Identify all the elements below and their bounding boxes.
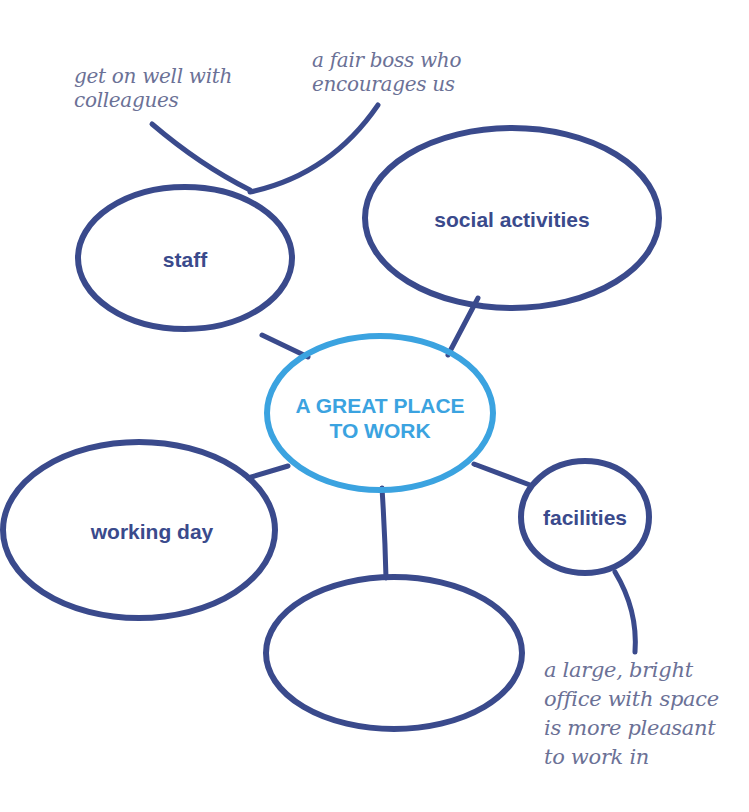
connector-blank-center [382, 488, 386, 578]
note-fair-boss: a fair boss who encourages us [312, 48, 461, 96]
connector-facilities-note [615, 572, 635, 652]
node-staff-label: staff [163, 247, 207, 272]
central-label-line-1: A GREAT PLACE [295, 393, 464, 418]
note-large-bright-office: a large, bright office with space is mor… [544, 656, 719, 772]
connector-note-colleagues [152, 124, 250, 190]
node-social-activities-label: social activities [434, 207, 589, 232]
node-blank-ellipse [266, 577, 522, 729]
node-facilities-label: facilities [543, 505, 627, 530]
note-get-on-well: get on well with colleagues [74, 64, 232, 112]
node-working-day-label: working day [91, 519, 214, 544]
node-central-label: A GREAT PLACE TO WORK [295, 393, 464, 443]
connector-staff-center [262, 335, 308, 357]
connector-note-boss [250, 105, 378, 192]
central-label-line-2: TO WORK [295, 418, 464, 443]
connector-facilities-center [474, 464, 530, 485]
connector-working-day-center [248, 466, 288, 478]
